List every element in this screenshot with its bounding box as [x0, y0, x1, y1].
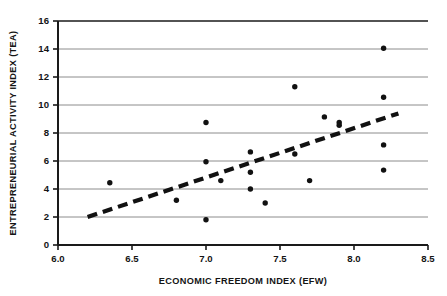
x-axis-tick-label: 6.0	[51, 253, 64, 264]
y-axis-tick-label: 14	[38, 43, 49, 54]
data-point	[248, 149, 253, 154]
x-axis-title: ECONOMIC FREEDOM INDEX (EFW)	[159, 276, 328, 286]
data-point	[248, 186, 253, 191]
y-axis-tick-label: 4	[44, 183, 50, 194]
data-point	[381, 95, 386, 100]
x-axis-tick-label: 7.5	[273, 253, 287, 264]
data-point	[381, 46, 386, 51]
data-point	[218, 178, 223, 183]
scatter-chart-figure: 6.06.57.07.58.08.5 0246810121416 ECONOMI…	[0, 0, 447, 296]
y-axis-tick-label: 12	[38, 71, 49, 82]
x-axis-tick-label: 8.0	[347, 253, 360, 264]
x-axis-tick-label: 8.5	[421, 253, 435, 264]
y-axis-tick-label: 8	[44, 127, 50, 138]
chart-canvas: 6.06.57.07.58.08.5 0246810121416 ECONOMI…	[0, 0, 447, 296]
data-point	[248, 170, 253, 175]
data-point	[292, 151, 297, 156]
y-axis-tick-label: 6	[44, 155, 49, 166]
data-point	[381, 142, 386, 147]
data-point	[322, 114, 327, 119]
x-axis-tick-label: 7.0	[199, 253, 212, 264]
data-point	[107, 180, 112, 185]
y-axis-tick-label: 10	[38, 99, 49, 110]
data-point	[381, 167, 386, 172]
data-point	[292, 84, 297, 89]
y-axis-tick-label: 2	[44, 211, 49, 222]
chart-background	[0, 0, 447, 296]
data-point	[203, 217, 208, 222]
data-point	[203, 120, 208, 125]
data-point	[174, 198, 179, 203]
y-axis-tick-label: 16	[38, 15, 49, 26]
data-point	[263, 200, 268, 205]
data-point	[307, 178, 312, 183]
data-point	[337, 123, 342, 128]
y-axis-title: ENTREPRENEURIAL ACTIVITY INDEX (TEA)	[8, 31, 18, 236]
x-axis-tick-label: 6.5	[125, 253, 139, 264]
data-point	[203, 159, 208, 164]
y-axis-tick-label: 0	[44, 239, 49, 250]
